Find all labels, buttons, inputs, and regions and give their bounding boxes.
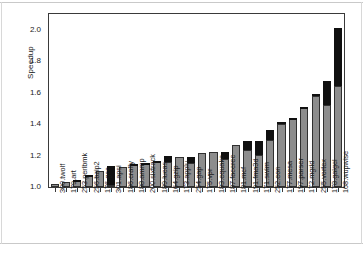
y-tick-label: 1.8 bbox=[30, 56, 41, 65]
bar-column bbox=[107, 14, 115, 187]
x-tick-label: 183.equake bbox=[217, 155, 226, 193]
bar-segment-black bbox=[334, 28, 342, 85]
bar-segment-black bbox=[300, 107, 308, 109]
bar-column bbox=[266, 14, 274, 187]
bar-segment-black bbox=[312, 94, 320, 96]
x-tick-label: 187.facerec bbox=[228, 155, 237, 193]
x-tick-label: 175.vpr bbox=[205, 169, 214, 193]
x-tick-label: 168.wupwise bbox=[341, 151, 350, 193]
x-tick-label: 197.parser bbox=[296, 158, 305, 193]
x-tick-label: 177.mesa bbox=[285, 161, 294, 193]
x-tick-label: 301.apsi bbox=[114, 165, 123, 193]
x-tick-label: 186.crafty bbox=[126, 161, 135, 193]
x-tick-label: 181.mcf bbox=[239, 167, 248, 193]
x-tick-label: 172.mgrid bbox=[307, 161, 316, 193]
y-tick-label: 1.6 bbox=[30, 88, 41, 97]
x-tick-label: 256.bzip2 bbox=[92, 161, 101, 193]
x-tick-label: 178.galgel bbox=[330, 159, 339, 193]
bar-column bbox=[198, 14, 206, 187]
bar-segment-black bbox=[243, 141, 251, 150]
bar-segment-black bbox=[289, 118, 297, 120]
figure-border-right bbox=[361, 2, 362, 244]
y-tick: 1.0 bbox=[0, 187, 48, 188]
y-tick-label: 2.0 bbox=[30, 25, 41, 34]
x-tick-label: 189.lucas bbox=[160, 162, 169, 193]
bar-column bbox=[62, 14, 70, 187]
figure-border-bottom bbox=[0, 243, 363, 244]
x-tick-label: 252.eon bbox=[273, 167, 282, 193]
figure-border-top bbox=[0, 2, 363, 3]
x-tick-label: 179.art bbox=[69, 170, 78, 193]
x-tick-label: 171.swim bbox=[262, 162, 271, 193]
y-tick: 2.0 bbox=[0, 30, 48, 31]
y-tick: 1.4 bbox=[0, 124, 48, 125]
x-tick-label: 173.applu bbox=[182, 161, 191, 193]
x-tick-label: 254.gap bbox=[194, 167, 203, 193]
bar-segment-black bbox=[255, 141, 263, 154]
x-tick-label: 253.perlbmk bbox=[80, 153, 89, 193]
y-tick-label: 1.4 bbox=[30, 119, 41, 128]
y-tick-label: 1.2 bbox=[30, 151, 41, 160]
x-tick-label: 188.ammp bbox=[137, 158, 146, 193]
bar-segment-black bbox=[277, 122, 285, 124]
x-tick-label: 164.gzip bbox=[171, 165, 180, 193]
x-tick-mark bbox=[55, 188, 56, 192]
y-tick: 1.6 bbox=[0, 93, 48, 94]
y-tick: 1.2 bbox=[0, 156, 48, 157]
bar-segment-black bbox=[323, 81, 331, 105]
x-tick-label: 255.vortex bbox=[319, 159, 328, 193]
figure-border-left bbox=[1, 2, 2, 244]
bar-segment-black bbox=[266, 130, 274, 139]
x-tick-label: 191.fma3d bbox=[251, 159, 260, 193]
y-tick-label: 1.0 bbox=[30, 182, 41, 191]
bar-column bbox=[51, 14, 59, 187]
x-tick-label: 300.twolf bbox=[58, 164, 67, 193]
chart-figure: Speedup 1.01.21.41.61.82.0 300.twolf179.… bbox=[0, 0, 363, 260]
y-tick: 1.8 bbox=[0, 61, 48, 62]
x-tick-label: 176.gcc bbox=[103, 167, 112, 193]
x-tick-label: 200.sixtrack bbox=[148, 154, 157, 193]
